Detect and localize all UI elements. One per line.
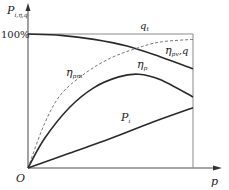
etapvq-label: ηpv,q [165, 44, 188, 58]
efficiency-chart: Pi,η,q 100% O p qt ηpv,q ηpm ηp Pi [0, 0, 229, 190]
pi-curve [28, 108, 193, 168]
qt-label: qt [140, 20, 149, 32]
pi-label: Pi [120, 111, 130, 124]
etapm-label: ηpm [66, 66, 82, 80]
y-axis-arrow [26, 3, 31, 11]
etapm-curve [28, 39, 193, 168]
x-axis-arrow [213, 166, 222, 171]
etap-curve [28, 74, 193, 168]
etap-label: ηp [137, 58, 148, 72]
origin-label: O [16, 172, 25, 185]
y-axis-label: Pi,η,q [6, 4, 28, 19]
y-tick-100: 100% [1, 29, 30, 40]
x-axis-label: p [211, 175, 218, 188]
